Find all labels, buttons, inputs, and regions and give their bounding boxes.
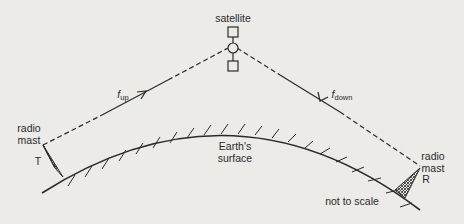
transmitter-mast-label: radio mast bbox=[14, 122, 44, 146]
uplink-arrow-icon bbox=[137, 91, 146, 99]
downlink-frequency-label: fdown bbox=[322, 88, 362, 104]
receiver-mast bbox=[395, 168, 420, 198]
uplink-frequency-label: fup bbox=[108, 88, 138, 104]
downlink-path bbox=[237, 48, 420, 166]
receiver-letter: R bbox=[420, 173, 432, 185]
scale-note: not to scale bbox=[312, 195, 392, 207]
satellite-label: satellite bbox=[208, 12, 258, 24]
transmitter-mast bbox=[43, 145, 63, 177]
diagram-canvas bbox=[0, 0, 464, 224]
receiver-mast-label: radio mast bbox=[418, 150, 448, 174]
transmitter-letter: T bbox=[32, 155, 44, 167]
satellite-icon bbox=[228, 27, 238, 71]
earth-surface-label: Earth's surface bbox=[210, 140, 260, 164]
